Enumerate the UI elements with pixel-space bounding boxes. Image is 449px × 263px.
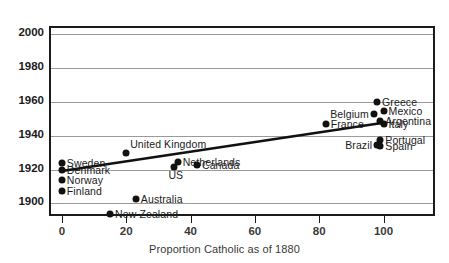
point-label-finland: Finland: [67, 185, 102, 196]
y-tick-label-2000: 2000: [0, 26, 44, 38]
point-label-new-zealand: New Zealand: [115, 209, 178, 220]
data-point-australia[interactable]: [132, 196, 139, 203]
point-label-brazil: Brazil: [345, 140, 372, 151]
data-point-france[interactable]: [322, 121, 329, 128]
data-point-spain[interactable]: [377, 143, 384, 150]
data-point-denmark[interactable]: [58, 167, 65, 174]
point-label-italy: Italy: [389, 119, 409, 130]
point-label-us: US: [168, 170, 183, 181]
data-point-canada[interactable]: [193, 162, 200, 169]
x-tick-label-60: 60: [248, 225, 261, 237]
data-point-finland[interactable]: [58, 187, 65, 194]
x-tick-label-80: 80: [313, 225, 326, 237]
y-tick-label-1920: 1920: [0, 162, 44, 174]
data-point-greece[interactable]: [374, 99, 381, 106]
x-tick-label-20: 20: [120, 225, 133, 237]
point-label-france: France: [331, 119, 364, 130]
y-tick-label-1980: 1980: [0, 60, 44, 72]
y-tick-label-1960: 1960: [0, 94, 44, 106]
point-label-spain: Spain: [385, 141, 412, 152]
y-tick-label-1940: 1940: [0, 128, 44, 140]
y-tick-label-1900: 1900: [0, 195, 44, 207]
data-point-norway[interactable]: [58, 177, 65, 184]
x-tick-label-100: 100: [374, 225, 393, 237]
point-label-united-kingdom: United Kingdom: [130, 139, 206, 150]
x-tick-60: [255, 216, 256, 223]
data-point-mexico[interactable]: [380, 107, 387, 114]
top-partial-text: · · · · · · · · · · · · · · · · · · ·: [0, 0, 449, 9]
x-axis-title: Proportion Catholic as of 1880: [0, 243, 449, 255]
gridline-1900: [51, 203, 433, 204]
x-tick-label-40: 40: [184, 225, 197, 237]
data-point-netherlands[interactable]: [174, 158, 181, 165]
point-label-australia: Australia: [141, 194, 183, 205]
data-point-belgium[interactable]: [370, 111, 377, 118]
point-label-canada: Canada: [202, 160, 239, 171]
x-tick-100: [384, 216, 385, 223]
x-tick-40: [191, 216, 192, 223]
data-point-italy[interactable]: [380, 121, 387, 128]
point-label-belgium: Belgium: [330, 109, 369, 120]
gridline-2000: [51, 34, 433, 35]
gridline-1940: [51, 136, 433, 137]
x-tick-0: [62, 216, 63, 223]
x-tick-80: [319, 216, 320, 223]
data-point-new-zealand[interactable]: [107, 211, 114, 218]
data-point-united-kingdom[interactable]: [123, 150, 130, 157]
chart-figure: · · · · · · · · · · · · · · · · · · · 19…: [0, 0, 449, 263]
gridline-1980: [51, 68, 433, 69]
x-tick-label-0: 0: [59, 225, 65, 237]
